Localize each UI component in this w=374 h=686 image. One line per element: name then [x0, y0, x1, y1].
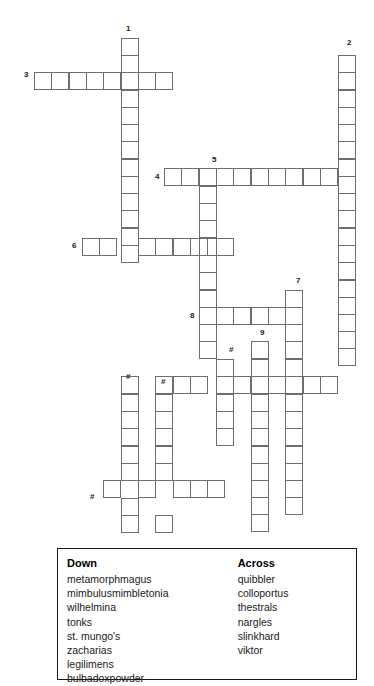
- crossword-cell[interactable]: [121, 446, 139, 464]
- crossword-cell[interactable]: [216, 307, 234, 325]
- crossword-cell[interactable]: [251, 341, 269, 359]
- crossword-cell[interactable]: [338, 245, 356, 263]
- crossword-cell[interactable]: [338, 176, 356, 194]
- crossword-cell[interactable]: [216, 359, 234, 377]
- crossword-cell[interactable]: [285, 411, 303, 429]
- crossword-cell[interactable]: [285, 394, 303, 412]
- crossword-cell[interactable]: [285, 428, 303, 446]
- crossword-cell[interactable]: [233, 376, 251, 394]
- crossword-cell[interactable]: [338, 55, 356, 73]
- crossword-cell[interactable]: [138, 238, 156, 256]
- crossword-cell[interactable]: [338, 262, 356, 280]
- crossword-cell[interactable]: [216, 394, 234, 412]
- crossword-cell[interactable]: [251, 446, 269, 464]
- crossword-cell[interactable]: [121, 210, 139, 228]
- crossword-cell[interactable]: [34, 72, 52, 90]
- crossword-cell[interactable]: [216, 168, 234, 186]
- crossword-cell[interactable]: [190, 480, 208, 498]
- crossword-cell[interactable]: [121, 245, 139, 263]
- crossword-cell[interactable]: [199, 324, 217, 342]
- crossword-cell[interactable]: [190, 238, 208, 256]
- crossword-cell[interactable]: [121, 38, 139, 56]
- crossword-cell[interactable]: [199, 290, 217, 308]
- crossword-cell[interactable]: [338, 314, 356, 332]
- crossword-cell[interactable]: [173, 376, 191, 394]
- crossword-cell[interactable]: [121, 72, 139, 90]
- crossword-cell[interactable]: [173, 238, 191, 256]
- crossword-cell[interactable]: [251, 376, 269, 394]
- crossword-cell[interactable]: [199, 255, 217, 273]
- crossword-cell[interactable]: [69, 72, 87, 90]
- crossword-cell[interactable]: [103, 480, 121, 498]
- crossword-cell[interactable]: [138, 72, 156, 90]
- crossword-cell[interactable]: [190, 376, 208, 394]
- crossword-cell[interactable]: [138, 480, 156, 498]
- crossword-cell[interactable]: [285, 376, 303, 394]
- crossword-cell[interactable]: [99, 238, 117, 256]
- crossword-cell[interactable]: [320, 376, 338, 394]
- crossword-cell[interactable]: [155, 463, 173, 481]
- crossword-cell[interactable]: [199, 341, 217, 359]
- crossword-cell[interactable]: [86, 72, 104, 90]
- crossword-cell[interactable]: [216, 428, 234, 446]
- crossword-cell[interactable]: [216, 376, 234, 394]
- crossword-cell[interactable]: [285, 463, 303, 481]
- crossword-cell[interactable]: [285, 168, 303, 186]
- crossword-cell[interactable]: [173, 480, 191, 498]
- crossword-cell[interactable]: [268, 376, 286, 394]
- crossword-cell[interactable]: [251, 394, 269, 412]
- crossword-cell[interactable]: [285, 290, 303, 308]
- crossword-cell[interactable]: [121, 55, 139, 73]
- crossword-cell[interactable]: [338, 107, 356, 125]
- crossword-cell[interactable]: [216, 238, 234, 256]
- crossword-cell[interactable]: [251, 307, 269, 325]
- crossword-cell[interactable]: [121, 141, 139, 159]
- crossword-cell[interactable]: [338, 72, 356, 90]
- crossword-cell[interactable]: [181, 168, 199, 186]
- crossword-cell[interactable]: [121, 107, 139, 125]
- crossword-cell[interactable]: [338, 331, 356, 349]
- crossword-cell[interactable]: [155, 428, 173, 446]
- crossword-cell[interactable]: [199, 220, 217, 238]
- crossword-cell[interactable]: [285, 307, 303, 325]
- crossword-cell[interactable]: [121, 159, 139, 177]
- crossword-cell[interactable]: [121, 193, 139, 211]
- crossword-cell[interactable]: [338, 228, 356, 246]
- crossword-cell[interactable]: [285, 359, 303, 377]
- crossword-cell[interactable]: [121, 515, 139, 533]
- crossword-cell[interactable]: [285, 341, 303, 359]
- crossword-cell[interactable]: [285, 446, 303, 464]
- crossword-cell[interactable]: [155, 72, 173, 90]
- crossword-cell[interactable]: [216, 411, 234, 429]
- crossword-cell[interactable]: [103, 72, 121, 90]
- crossword-cell[interactable]: [199, 168, 217, 186]
- crossword-cell[interactable]: [121, 228, 139, 246]
- crossword-cell[interactable]: [155, 411, 173, 429]
- crossword-cell[interactable]: [199, 272, 217, 290]
- crossword-cell[interactable]: [251, 428, 269, 446]
- crossword-cell[interactable]: [251, 514, 269, 532]
- crossword-cell[interactable]: [155, 515, 173, 533]
- crossword-cell[interactable]: [199, 307, 217, 325]
- crossword-cell[interactable]: [338, 280, 356, 298]
- crossword-cell[interactable]: [338, 193, 356, 211]
- crossword-cell[interactable]: [285, 480, 303, 498]
- crossword-cell[interactable]: [121, 176, 139, 194]
- crossword-cell[interactable]: [199, 203, 217, 221]
- crossword-cell[interactable]: [121, 394, 139, 412]
- crossword-cell[interactable]: [268, 307, 286, 325]
- crossword-cell[interactable]: [285, 324, 303, 342]
- crossword-cell[interactable]: [320, 168, 338, 186]
- crossword-cell[interactable]: [121, 498, 139, 516]
- crossword-cell[interactable]: [82, 238, 100, 256]
- crossword-cell[interactable]: [155, 394, 173, 412]
- crossword-cell[interactable]: [338, 210, 356, 228]
- crossword-cell[interactable]: [251, 411, 269, 429]
- crossword-cell[interactable]: [199, 186, 217, 204]
- crossword-cell[interactable]: [155, 238, 173, 256]
- crossword-cell[interactable]: [233, 307, 251, 325]
- crossword-cell[interactable]: [155, 446, 173, 464]
- crossword-cell[interactable]: [338, 297, 356, 315]
- crossword-cell[interactable]: [251, 168, 269, 186]
- crossword-cell[interactable]: [121, 428, 139, 446]
